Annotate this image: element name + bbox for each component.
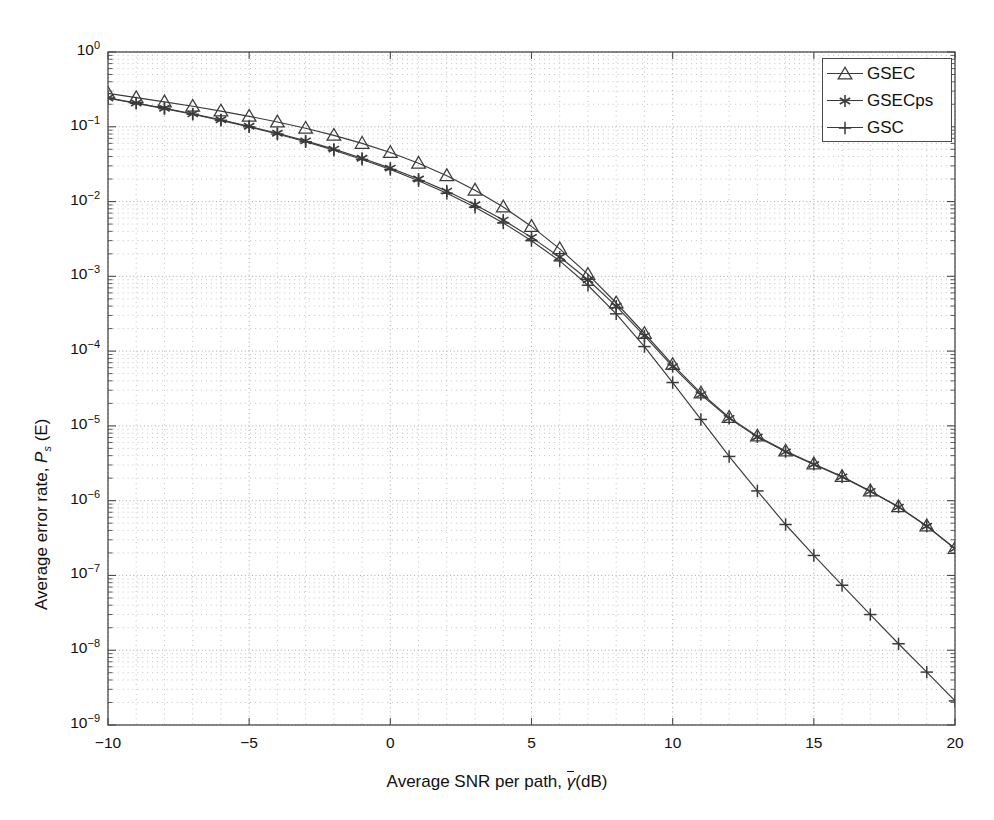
y-tick-label: 10−3 (34, 265, 100, 283)
y-axis-label: Average error rate, Ps (E) (32, 419, 52, 610)
legend-label: GSEC (867, 64, 915, 84)
y-tick-exponent: −7 (87, 562, 100, 574)
legend-label: GSECps (867, 91, 933, 111)
marker-asterisk (840, 95, 850, 107)
y-axis-symbol-P: P (32, 452, 51, 463)
y-tick-mantissa: 10 (70, 116, 87, 133)
y-tick-mantissa: 10 (70, 564, 87, 581)
y-tick-exponent: −6 (87, 488, 100, 500)
y-tick-exponent: −9 (87, 712, 100, 724)
legend-item-gsc: GSC (823, 114, 951, 141)
legend-marker-asterisk-icon (823, 88, 867, 114)
y-tick-label: 100 (34, 41, 100, 59)
gamma-symbol: γ (567, 772, 576, 791)
legend-item-gsecps: GSECps (823, 87, 951, 114)
x-axis-label-suffix: (dB) (575, 772, 607, 791)
y-tick-exponent: 0 (94, 39, 100, 51)
y-tick-label: 10−2 (34, 191, 100, 209)
figure-root: 10010−110−210−310−410−510−610−710−810−9 … (0, 0, 994, 820)
y-tick-exponent: −2 (87, 188, 100, 200)
marker-plus (839, 121, 851, 133)
y-axis-label-suffix: (E) (32, 419, 51, 446)
x-axis-label-prefix: Average SNR per path, (387, 772, 567, 791)
gamma-bar-symbol: γ (567, 772, 576, 792)
legend: GSECGSECpsGSC (822, 58, 952, 142)
y-tick-mantissa: 10 (70, 340, 87, 357)
y-tick-mantissa: 10 (70, 490, 87, 507)
legend-marker-glyph (834, 63, 856, 85)
x-tick-label: 15 (784, 734, 844, 752)
x-tick-label: 5 (502, 734, 562, 752)
legend-label: GSC (867, 118, 904, 138)
y-tick-exponent: −1 (87, 114, 100, 126)
y-axis-symbol-sub: s (41, 446, 53, 452)
y-tick-mantissa: 10 (77, 41, 94, 58)
legend-marker-glyph (834, 90, 856, 112)
x-tick-label: −10 (78, 734, 138, 752)
legend-marker-triangle-up-icon (823, 61, 867, 87)
y-axis-label-prefix: Average error rate, (32, 463, 51, 610)
y-tick-mantissa: 10 (70, 415, 87, 432)
y-tick-mantissa: 10 (70, 265, 87, 282)
marker-triangle-up (838, 67, 852, 79)
y-tick-exponent: −3 (87, 263, 100, 275)
y-tick-label: 10−4 (34, 340, 100, 358)
x-tick-label: −5 (219, 734, 279, 752)
y-tick-mantissa: 10 (70, 639, 87, 656)
triangle-up-marker (838, 67, 852, 79)
x-axis-label: Average SNR per path, γ(dB) (0, 772, 994, 792)
y-tick-mantissa: 10 (70, 191, 87, 208)
y-tick-exponent: −8 (87, 637, 100, 649)
y-tick-label: 10−8 (34, 639, 100, 657)
y-tick-mantissa: 10 (70, 714, 87, 731)
y-tick-label: 10−1 (34, 116, 100, 134)
x-tick-label: 0 (360, 734, 420, 752)
y-tick-label: 10−9 (34, 714, 100, 732)
legend-marker-plus-icon (823, 115, 867, 141)
y-tick-exponent: −5 (87, 413, 100, 425)
x-tick-label: 20 (925, 734, 985, 752)
y-tick-exponent: −4 (87, 338, 100, 350)
legend-item-gsec: GSEC (823, 60, 951, 87)
legend-marker-glyph (834, 117, 856, 139)
x-tick-label: 10 (643, 734, 703, 752)
